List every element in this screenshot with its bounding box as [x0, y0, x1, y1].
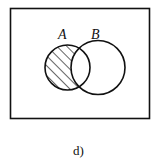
- caption: d): [73, 143, 84, 158]
- set-b-label: B: [91, 27, 100, 42]
- shaded-region-a-minus-b: [40, 40, 100, 100]
- venn-diagram: A B d): [0, 0, 153, 163]
- set-a-label: A: [57, 27, 67, 42]
